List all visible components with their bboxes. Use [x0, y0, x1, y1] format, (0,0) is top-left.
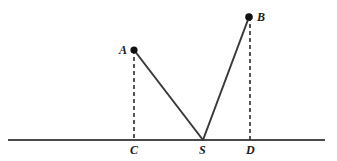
point-label-d: D: [246, 144, 255, 156]
point-label-c: C: [130, 144, 138, 156]
point-marker-b: [245, 13, 253, 21]
figure-canvas: [0, 0, 337, 161]
point-marker-a: [130, 46, 137, 53]
point-label-s: S: [199, 144, 206, 156]
geometry-figure: A B C S D: [0, 0, 337, 161]
segment-a-to-s: [134, 50, 203, 140]
segment-s-to-b: [203, 17, 249, 140]
point-label-a: A: [119, 44, 127, 56]
point-label-b: B: [257, 11, 265, 23]
